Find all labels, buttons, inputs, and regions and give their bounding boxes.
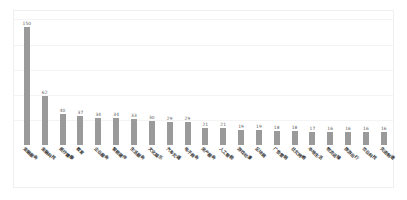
category-label-slot: 本地生活 xyxy=(304,146,322,194)
bar-value-label: 18 xyxy=(274,125,280,130)
category-labels: 金融服务金融科技医疗健康教育企业服务智能硬件生活服务文化娱乐汽车交通电子商务房产… xyxy=(14,146,393,194)
category-label-slot: 先进制造 xyxy=(375,146,393,194)
bar-value-label: 19 xyxy=(256,124,262,129)
bar-value-label: 16 xyxy=(381,126,387,131)
bar[interactable] xyxy=(327,132,333,145)
bar[interactable] xyxy=(220,128,226,145)
bar-value-label: 34 xyxy=(95,112,101,117)
bar-value-label: 19 xyxy=(238,124,244,129)
category-label-slot: 农业科技 xyxy=(357,146,375,194)
bar-value-label: 34 xyxy=(113,112,119,117)
bar-value-label: 16 xyxy=(363,126,369,131)
category-label: 教育 xyxy=(76,146,86,155)
plot-area: 1506240373434333029292121191918181716161… xyxy=(14,11,393,145)
bar[interactable] xyxy=(363,132,369,145)
bar-value-label: 29 xyxy=(185,116,191,121)
category-label-slot: 企业服务 xyxy=(89,146,107,194)
bar-value-label: 30 xyxy=(149,115,155,120)
category-label-slot: 房产服务 xyxy=(196,146,214,194)
bar-group[interactable]: 18 xyxy=(268,11,286,145)
bar[interactable] xyxy=(113,118,119,145)
category-label-slot: 人工智能 xyxy=(214,146,232,194)
bars-layer: 1506240373434333029292121191918181716161… xyxy=(14,11,393,145)
bar-group[interactable]: 16 xyxy=(357,11,375,145)
category-label-slot: 物流运输 xyxy=(321,146,339,194)
bar-group[interactable]: 21 xyxy=(214,11,232,145)
bar-group[interactable]: 150 xyxy=(18,11,36,145)
bar[interactable] xyxy=(149,121,155,145)
category-label-slot: 金融科技 xyxy=(36,146,54,194)
bar-value-label: 16 xyxy=(345,126,351,131)
bar[interactable] xyxy=(309,132,315,145)
bar[interactable] xyxy=(292,131,298,145)
bar-group[interactable]: 34 xyxy=(89,11,107,145)
bar-group[interactable]: 19 xyxy=(232,11,250,145)
bar-value-label: 33 xyxy=(131,113,137,118)
bar-chart: 1506240373434333029292121191918181716161… xyxy=(0,0,407,200)
bar[interactable] xyxy=(60,114,66,146)
bar-value-label: 37 xyxy=(78,110,84,115)
bar[interactable] xyxy=(256,130,262,145)
bar[interactable] xyxy=(202,128,208,145)
bar[interactable] xyxy=(131,119,137,145)
category-label-slot: 区块链 xyxy=(250,146,268,194)
bar-group[interactable]: 19 xyxy=(250,11,268,145)
bar-group[interactable]: 16 xyxy=(339,11,357,145)
bar-value-label: 21 xyxy=(220,122,226,127)
category-label-slot: 电子商务 xyxy=(179,146,197,194)
bar[interactable] xyxy=(381,132,387,145)
category-label-slot: 教育 xyxy=(72,146,90,194)
bar-value-label: 18 xyxy=(292,125,298,130)
bar-value-label: 17 xyxy=(310,126,316,131)
category-label-slot: 文化娱乐 xyxy=(143,146,161,194)
bar-value-label: 150 xyxy=(23,21,32,26)
bar-group[interactable]: 17 xyxy=(304,11,322,145)
bar-value-label: 40 xyxy=(60,108,66,113)
bar-group[interactable]: 21 xyxy=(196,11,214,145)
category-label-slot: 游戏动漫 xyxy=(232,146,250,194)
category-label-slot: 旅游出行 xyxy=(339,146,357,194)
category-label-slot: 生活服务 xyxy=(125,146,143,194)
bar-group[interactable]: 34 xyxy=(107,11,125,145)
bar[interactable] xyxy=(238,130,244,145)
bar[interactable] xyxy=(167,122,173,145)
category-label-slot: 医疗健康 xyxy=(54,146,72,194)
bar[interactable] xyxy=(345,132,351,145)
category-label: 先进制造 xyxy=(379,146,395,161)
category-label-slot: 金融服务 xyxy=(18,146,36,194)
bar-group[interactable]: 29 xyxy=(179,11,197,145)
category-label-slot: 汽车交通 xyxy=(161,146,179,194)
bar-group[interactable]: 40 xyxy=(54,11,72,145)
bar-group[interactable]: 33 xyxy=(125,11,143,145)
category-label: 区块链 xyxy=(255,146,268,158)
bar-value-label: 16 xyxy=(327,126,333,131)
bar[interactable] xyxy=(274,131,280,145)
category-label-slot: 智能硬件 xyxy=(107,146,125,194)
category-label-slot: 广告营销 xyxy=(268,146,286,194)
bar[interactable] xyxy=(24,27,30,145)
bar-group[interactable]: 62 xyxy=(36,11,54,145)
category-label-slot: 社交网络 xyxy=(286,146,304,194)
bar[interactable] xyxy=(185,122,191,145)
bar-group[interactable]: 29 xyxy=(161,11,179,145)
bar[interactable] xyxy=(42,96,48,145)
bar-group[interactable]: 16 xyxy=(321,11,339,145)
bar-value-label: 62 xyxy=(42,90,48,95)
bar-group[interactable]: 18 xyxy=(286,11,304,145)
bar-group[interactable]: 37 xyxy=(72,11,90,145)
bar-value-label: 21 xyxy=(202,122,208,127)
bar-group[interactable]: 30 xyxy=(143,11,161,145)
bar[interactable] xyxy=(77,116,83,145)
bar-value-label: 29 xyxy=(167,116,173,121)
bar[interactable] xyxy=(95,118,101,145)
bar-group[interactable]: 16 xyxy=(375,11,393,145)
